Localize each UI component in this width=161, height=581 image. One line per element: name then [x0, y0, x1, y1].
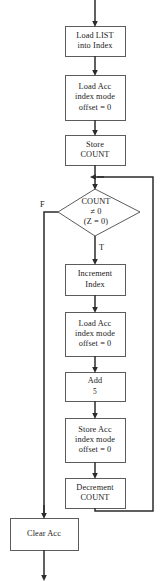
node-box-load-list: [65, 26, 125, 56]
node-box-increment-index: [65, 264, 125, 295]
branch-label-true: T: [99, 243, 104, 252]
node-box-load-acc-1: [65, 75, 125, 120]
node-box-store-count: [65, 135, 125, 165]
flowchart-diagram: Load LIST into Index Load Acc index mode…: [0, 0, 161, 581]
edge-false-to-clear-acc: [44, 212, 58, 516]
node-diamond-count-test: [58, 189, 140, 236]
node-box-store-acc: [65, 418, 125, 462]
node-box-decrement-count: [65, 478, 125, 508]
flowchart-canvas: [0, 0, 161, 581]
node-box-add-5: [65, 372, 125, 401]
node-box-load-acc-2: [65, 312, 125, 356]
branch-label-false: F: [40, 200, 45, 209]
node-box-clear-acc: [10, 518, 78, 550]
